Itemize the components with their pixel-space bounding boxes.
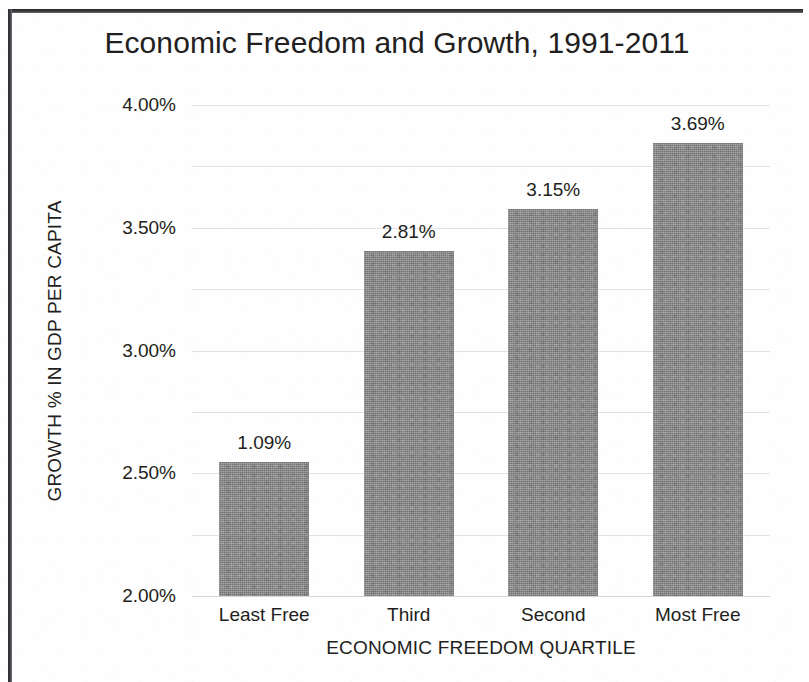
page-border-top (8, 9, 803, 13)
bar-slot: 3.15% (481, 105, 626, 596)
page-border-left (8, 9, 12, 682)
bar[interactable] (508, 209, 598, 596)
x-axis-tick-label: Most Free (626, 604, 771, 626)
x-axis-tick-label: Least Free (192, 604, 337, 626)
bar-value-label: 3.69% (671, 113, 725, 135)
bar-value-label: 1.09% (237, 432, 291, 454)
bar-slot: 3.69% (626, 105, 771, 596)
y-axis-tick-label: 3.00% (122, 340, 176, 362)
chart-title: Economic Freedom and Growth, 1991-2011 (12, 26, 782, 60)
x-axis-tick-label: Second (481, 604, 626, 626)
chart-page: Economic Freedom and Growth, 1991-2011 G… (0, 0, 809, 682)
gridline: 0.00% (192, 596, 770, 597)
bar[interactable] (653, 143, 743, 596)
plot-area: 0.00%0.50%1.00%1.50%2.00%2.50%3.00%3.50%… (192, 105, 770, 596)
y-axis-title: GROWTH % IN GDP PER CAPITA (40, 105, 70, 596)
bar-slot: 1.09% (192, 105, 337, 596)
bar-value-label: 2.81% (382, 221, 436, 243)
y-axis-tick-label: 3.50% (122, 217, 176, 239)
y-axis-title-text: GROWTH % IN GDP PER CAPITA (44, 200, 66, 501)
y-axis-tick-label: 2.50% (122, 462, 176, 484)
bar-value-label: 3.15% (526, 179, 580, 201)
x-axis-title: ECONOMIC FREEDOM QUARTILE (192, 637, 770, 659)
bar-slot: 2.81% (337, 105, 482, 596)
bar-series: 1.09%2.81%3.15%3.69% (192, 105, 770, 596)
y-axis-tick-label: 4.00% (122, 94, 176, 116)
x-axis-tick-label: Third (337, 604, 482, 626)
y-axis-tick-label: 2.00% (122, 585, 176, 607)
bar[interactable] (364, 251, 454, 596)
bar[interactable] (219, 462, 309, 596)
